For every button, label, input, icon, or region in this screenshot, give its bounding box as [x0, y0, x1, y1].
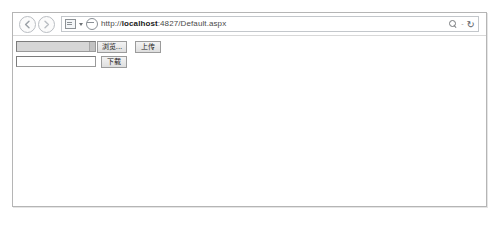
- page-favicon: [86, 18, 98, 30]
- compatibility-view-icon[interactable]: [64, 19, 77, 30]
- back-arrow-icon: [21, 18, 34, 31]
- browser-window: http://localhost:4827/Default.aspx - ↻ 浏…: [12, 12, 487, 207]
- browse-button[interactable]: 浏览...: [97, 41, 127, 53]
- url-path: :4827/Default.aspx: [158, 19, 227, 28]
- action-separator: -: [461, 20, 463, 28]
- search-icon[interactable]: [449, 20, 458, 29]
- forward-arrow-icon: [40, 18, 53, 31]
- url-host: localhost: [122, 19, 158, 28]
- url-scheme: http://: [101, 19, 122, 28]
- download-button[interactable]: 下载: [101, 56, 127, 68]
- refresh-icon[interactable]: ↻: [467, 20, 475, 29]
- download-filename-input[interactable]: [16, 56, 96, 67]
- address-bar-actions: - ↻: [449, 20, 476, 29]
- page-content: 浏览... 上传 下载: [13, 36, 486, 68]
- address-bar[interactable]: http://localhost:4827/Default.aspx - ↻: [61, 16, 479, 32]
- chevron-down-icon[interactable]: [79, 23, 83, 26]
- back-button[interactable]: [19, 16, 36, 33]
- file-upload-input[interactable]: [16, 41, 96, 52]
- download-row: 下载: [16, 55, 486, 68]
- forward-button[interactable]: [38, 16, 55, 33]
- upload-button[interactable]: 上传: [135, 41, 161, 53]
- upload-row: 浏览... 上传: [16, 40, 486, 53]
- page-viewport: 浏览... 上传 下载: [13, 35, 486, 206]
- browser-toolbar: http://localhost:4827/Default.aspx - ↻: [13, 13, 486, 35]
- file-input-stub: [89, 42, 95, 51]
- address-bar-url: http://localhost:4827/Default.aspx: [101, 19, 449, 29]
